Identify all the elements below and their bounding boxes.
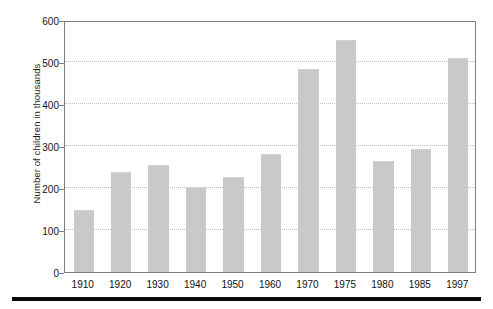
plot-area [64, 21, 476, 273]
x-tick-label-1970: 1970 [296, 279, 318, 290]
gridline-400 [65, 103, 475, 104]
bar-1997 [448, 58, 468, 272]
y-tick-label-100: 100 [25, 226, 59, 237]
y-tick-label-0: 0 [25, 268, 59, 279]
bar-1940 [186, 187, 206, 272]
bar-1985 [411, 149, 431, 272]
y-axis-title: Number of children in thousands [31, 4, 42, 264]
x-tick-label-1960: 1960 [259, 279, 281, 290]
x-tick-label-1950: 1950 [221, 279, 243, 290]
gridline-300 [65, 145, 475, 146]
bar-1910 [74, 210, 94, 272]
x-tick-label-1940: 1940 [184, 279, 206, 290]
x-tick-label-1930: 1930 [147, 279, 169, 290]
x-tick-label-1997: 1997 [446, 279, 468, 290]
x-tick-label-1910: 1910 [72, 279, 94, 290]
plot-inner [65, 22, 475, 272]
x-tick-label-1980: 1980 [371, 279, 393, 290]
bar-chart-figure: Number of children in thousands 01002003… [0, 0, 493, 309]
y-tick-label-500: 500 [25, 58, 59, 69]
y-tick-label-600: 600 [25, 16, 59, 27]
bar-1960 [261, 154, 281, 272]
bar-1950 [223, 177, 243, 272]
y-tick-mark-0 [58, 273, 64, 274]
gridline-500 [65, 61, 475, 62]
y-tick-label-400: 400 [25, 100, 59, 111]
bar-1930 [148, 165, 168, 272]
x-tick-label-1975: 1975 [334, 279, 356, 290]
y-tick-label-200: 200 [25, 184, 59, 195]
bar-1970 [298, 69, 318, 272]
x-tick-label-1985: 1985 [409, 279, 431, 290]
bar-1975 [336, 40, 356, 272]
bottom-rule [12, 297, 481, 301]
x-tick-label-1920: 1920 [109, 279, 131, 290]
bar-1920 [111, 172, 131, 272]
bar-1980 [373, 161, 393, 272]
y-tick-label-300: 300 [25, 142, 59, 153]
